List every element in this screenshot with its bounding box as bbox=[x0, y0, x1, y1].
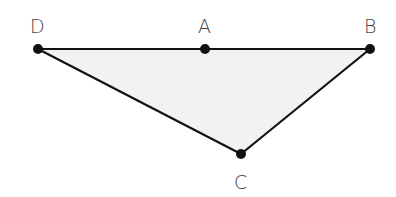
triangle-diagram: D A B C bbox=[0, 0, 396, 197]
label-c: C bbox=[234, 171, 247, 193]
point-c bbox=[236, 149, 246, 159]
label-d: D bbox=[30, 15, 45, 37]
point-d bbox=[33, 44, 43, 54]
label-b: B bbox=[364, 15, 376, 37]
point-a bbox=[200, 44, 210, 54]
point-b bbox=[365, 44, 375, 54]
triangle-dbc bbox=[38, 49, 370, 154]
label-a: A bbox=[198, 15, 211, 37]
